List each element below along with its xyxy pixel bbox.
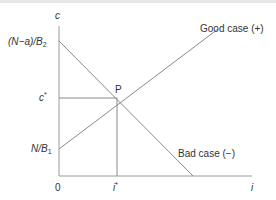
y-axis-label: c (55, 10, 60, 21)
bad-case-label: Bad case (−) (178, 148, 235, 159)
y-tick-cstar: c* (39, 91, 47, 103)
good-case-label: Good case (+) (200, 23, 264, 34)
intersection-label: P (115, 84, 122, 95)
x-axis-label: i (251, 182, 254, 193)
economic-diagram: c i 0 (N−a)/B2 c* N/B1 i* P Good case (+… (0, 0, 276, 200)
y-tick-low: N/B1 (31, 143, 52, 155)
x-tick-istar: i* (113, 181, 118, 193)
origin-label: 0 (55, 182, 61, 193)
good-case-line (59, 29, 218, 149)
y-tick-top: (N−a)/B2 (8, 36, 47, 48)
bad-case-line (59, 41, 193, 176)
